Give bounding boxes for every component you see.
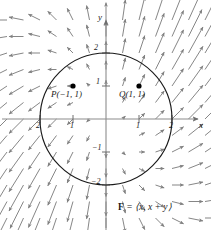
vector-arrow xyxy=(139,133,145,136)
vector-arrow xyxy=(139,169,145,172)
vector-arrow xyxy=(205,0,211,20)
vector-arrow xyxy=(172,166,184,169)
vector-arrow xyxy=(9,86,23,95)
vector-arrow xyxy=(48,169,57,186)
vector-arrow xyxy=(87,136,90,142)
vector-arrow xyxy=(156,91,165,103)
vector-arrow xyxy=(156,130,165,136)
vector-arrow xyxy=(205,179,211,185)
vector-field-plot xyxy=(0,0,211,230)
vector-arrow xyxy=(0,37,7,40)
vector-arrow xyxy=(172,146,184,152)
vector-arrow xyxy=(28,14,40,20)
vector-arrow xyxy=(9,103,23,115)
x-tick-label-1: 1 xyxy=(136,122,140,130)
vector-arrow xyxy=(11,218,23,230)
vector-arrow xyxy=(28,70,40,73)
vector-arrow xyxy=(123,152,126,155)
vector-arrow xyxy=(139,0,145,20)
vector-arrow xyxy=(205,102,211,119)
vector-arrow xyxy=(48,103,57,109)
vector-arrow xyxy=(156,72,165,86)
vector-arrow xyxy=(9,152,23,172)
vector-arrow xyxy=(172,107,184,119)
vector-arrow xyxy=(48,136,57,148)
x-axis-label: x xyxy=(199,121,203,130)
point-label-Q: Q(1, 1) xyxy=(119,90,145,99)
vector-arrow xyxy=(189,0,201,20)
point-marker-P xyxy=(70,83,75,88)
vector-arrow xyxy=(67,47,73,53)
y-tick-label-2: 2 xyxy=(94,44,98,52)
vector-arrow xyxy=(48,31,57,37)
vector-arrow xyxy=(28,103,40,112)
vector-arrow xyxy=(189,85,203,102)
vector-arrow xyxy=(205,121,211,135)
point-marker-Q xyxy=(136,83,141,88)
vector-arrow xyxy=(48,152,57,166)
vector-arrow xyxy=(139,16,145,36)
vector-arrow xyxy=(67,8,73,20)
vector-arrow xyxy=(172,88,184,102)
vector-arrow xyxy=(205,199,211,202)
x-tick-label-2: 2 xyxy=(169,122,173,130)
vector-arrow xyxy=(172,0,183,20)
vector-field-figure: x y 2 1 −1 −2 2 1 1 2 P(−1, 1) Q(1, 1) F… xyxy=(0,0,211,230)
vector-arrow xyxy=(189,218,203,221)
vector-arrow xyxy=(139,218,145,230)
vector-field-formula: F = ⟨x, x + y⟩ xyxy=(118,203,172,213)
vector-arrow xyxy=(123,39,126,53)
vector-arrow xyxy=(0,152,7,175)
vector-arrow xyxy=(156,33,165,53)
vector-arrow xyxy=(0,70,7,79)
vector-arrow xyxy=(156,218,165,227)
vector-arrow xyxy=(9,53,23,56)
vector-arrow xyxy=(123,185,126,194)
vector-arrow xyxy=(172,218,184,224)
vector-arrow xyxy=(172,69,184,86)
vector-arrow xyxy=(87,25,90,37)
x-tick-label-neg1: 1 xyxy=(70,122,74,130)
vector-arrow xyxy=(205,160,211,169)
vector-arrow xyxy=(172,127,184,136)
vector-arrow xyxy=(156,52,165,69)
vector-arrow xyxy=(172,49,184,69)
vector-arrow xyxy=(87,169,90,181)
vector-arrow xyxy=(123,218,126,230)
vector-arrow xyxy=(0,53,7,59)
vector-arrow xyxy=(123,77,126,86)
vector-arrow xyxy=(87,152,90,161)
vector-arrow xyxy=(123,0,126,20)
vector-arrow xyxy=(189,143,203,152)
vector-arrow xyxy=(67,103,73,106)
vector-arrow xyxy=(189,163,203,169)
vector-arrow xyxy=(0,119,7,136)
vector-arrow xyxy=(48,50,57,53)
vector-arrow xyxy=(67,28,73,37)
vector-arrow xyxy=(205,63,211,86)
vector-arrow xyxy=(172,202,184,205)
vector-arrow xyxy=(139,36,145,53)
vector-arrow xyxy=(189,105,203,119)
vector-arrow xyxy=(9,136,23,153)
vector-arrow xyxy=(28,86,40,92)
vector-arrow xyxy=(156,110,165,119)
vector-arrow xyxy=(139,113,145,119)
vector-arrow xyxy=(0,218,7,230)
y-tick-label-1: 1 xyxy=(96,78,100,86)
vector-arrow xyxy=(28,169,40,189)
vector-arrow xyxy=(0,185,7,211)
vector-arrow xyxy=(48,11,57,20)
vector-arrow xyxy=(205,140,211,152)
vector-arrow xyxy=(67,152,73,164)
vector-arrow xyxy=(123,19,126,36)
vector-arrow xyxy=(189,182,203,185)
vector-arrow xyxy=(28,136,40,150)
vector-arrow xyxy=(189,66,203,86)
vector-arrow xyxy=(87,44,90,53)
vector-arrow xyxy=(0,86,7,98)
vector-arrow xyxy=(9,17,23,20)
vector-arrow xyxy=(28,34,40,37)
point-label-P: P(−1, 1) xyxy=(51,90,82,99)
vector-arrow xyxy=(87,6,90,20)
